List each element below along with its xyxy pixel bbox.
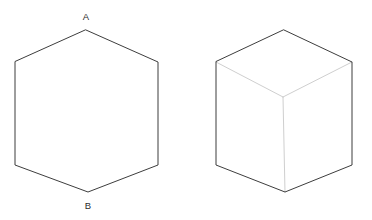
cube-interior-edge-upper-right: [283, 62, 352, 97]
hexagon-outline: [15, 30, 158, 192]
cube-interior-edge-vertical: [283, 97, 285, 192]
cube-interior-edge-upper-left: [216, 62, 283, 97]
figures-svg: A B: [0, 0, 372, 220]
hexagon-figure: A B: [15, 11, 158, 211]
hexagon-label-b: B: [85, 200, 92, 211]
cube-figure: [216, 30, 352, 192]
hexagon-label-a: A: [83, 11, 90, 22]
figure-canvas: A B: [0, 0, 372, 220]
